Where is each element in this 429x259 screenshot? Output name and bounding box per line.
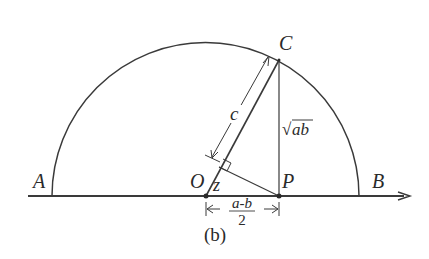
radical-sign: √ — [282, 120, 292, 139]
label-p: P — [281, 170, 294, 192]
point-o — [204, 194, 209, 199]
label-sqrt-ab: √ ab — [282, 120, 313, 139]
radicand: ab — [292, 120, 309, 139]
arrowhead-icon — [211, 150, 218, 158]
label-b: B — [372, 170, 384, 192]
semicircle-arc — [52, 43, 359, 196]
fraction-denominator: 2 — [238, 212, 246, 228]
label-a: A — [31, 170, 46, 192]
point-c — [278, 59, 281, 62]
label-c-length: c — [230, 103, 239, 124]
label-c: C — [279, 32, 293, 54]
point-p — [277, 194, 282, 199]
figure-caption: (b) — [204, 224, 226, 246]
label-o: O — [190, 170, 204, 192]
fraction-numerator: a-b — [232, 195, 252, 211]
segment-p-foot — [219, 167, 279, 196]
label-z: z — [212, 175, 220, 195]
semicircle-diagram: A B C O P c z √ ab a-b 2 (b) — [0, 0, 429, 259]
